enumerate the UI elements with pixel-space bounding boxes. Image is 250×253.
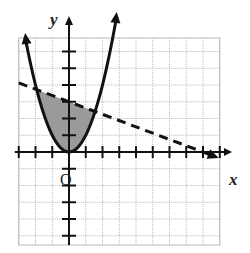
axes	[15, 16, 232, 245]
grid-lines	[19, 38, 220, 245]
chart-figure: y x O	[0, 0, 250, 253]
y-axis-label: y	[50, 10, 58, 30]
x-axis-label: x	[229, 170, 238, 190]
origin-label: O	[60, 171, 72, 189]
plot-area	[0, 0, 250, 253]
